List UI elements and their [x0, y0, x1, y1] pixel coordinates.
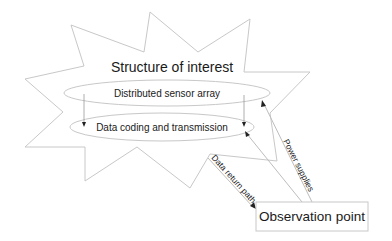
observation-point-node: Observation point	[256, 202, 368, 231]
data-coding-label: Data coding and transmission	[96, 122, 228, 133]
data-return-label: Data return path	[210, 153, 259, 206]
arrowhead-icon	[242, 122, 246, 127]
sensor-array-node: Distributed sensor array	[64, 80, 270, 106]
structure-star-outline	[25, 12, 310, 188]
data-coding-node: Data coding and transmission	[70, 113, 254, 141]
power-supplies-edge: Power supplies	[261, 100, 316, 202]
arrowhead-icon	[82, 122, 86, 127]
data-return-edge: Data return path	[208, 153, 258, 209]
sensor-to-coding-right-edge	[242, 95, 246, 127]
power-supplies-label: Power supplies	[281, 137, 316, 193]
structure-title: Structure of interest	[111, 59, 233, 75]
power-to-coding-edge	[245, 131, 302, 202]
system-diagram: Structure of interest Distributed sensor…	[0, 0, 392, 241]
arrowhead-icon	[261, 100, 266, 107]
sensor-to-coding-left-edge	[82, 94, 86, 127]
sensor-array-label: Distributed sensor array	[114, 88, 220, 99]
observation-point-label: Observation point	[259, 209, 365, 224]
